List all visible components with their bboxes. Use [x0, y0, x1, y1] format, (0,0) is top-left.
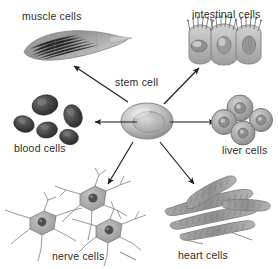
blood-cells-illustration [11, 93, 85, 147]
label-intestinal-cells: intestinal cells [192, 8, 261, 20]
muscle-cell-illustration [24, 31, 132, 60]
stem-cell-differentiation-diagram: muscle cells intestinal cells stem cell … [0, 0, 278, 269]
heart-cells-illustration [165, 176, 271, 244]
label-heart-cells: heart cells [178, 249, 228, 261]
arrow-to-nerve [108, 142, 133, 184]
arrow-to-intestinal [164, 68, 199, 104]
label-stem-cell: stem cell [115, 76, 158, 88]
diagram-artwork [0, 0, 278, 269]
stem-cell-illustration [121, 103, 173, 139]
striations [174, 179, 260, 239]
label-muscle-cells: muscle cells [22, 10, 82, 22]
label-liver-cells: liver cells [222, 144, 267, 156]
liver-cells-illustration [212, 95, 273, 145]
arrow-to-heart [160, 142, 194, 184]
stray-dendrite-stroke [120, 252, 136, 260]
label-nerve-cells: nerve cells [52, 250, 104, 262]
label-blood-cells: blood cells [14, 142, 66, 154]
intestinal-cells-illustration [187, 15, 262, 65]
